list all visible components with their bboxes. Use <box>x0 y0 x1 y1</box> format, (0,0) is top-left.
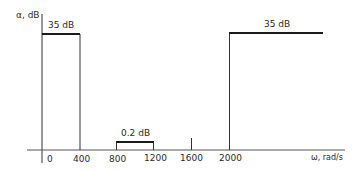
tick-label-800: 800 <box>109 155 126 164</box>
tick-label-0: 0 <box>47 155 53 164</box>
tick-label-400: 400 <box>73 155 90 164</box>
tick-label-1600: 1600 <box>180 154 203 163</box>
stopband-high-label: 35 dB <box>264 20 290 29</box>
tick-label-2000: 2000 <box>219 154 242 163</box>
stopband-low-label: 35 dB <box>48 21 74 30</box>
passband-label: 0.2 dB <box>121 129 150 138</box>
tick-label-1200: 1200 <box>144 154 167 163</box>
y-axis-label: α, dB <box>16 11 40 20</box>
x-axis-label: ω, rad/s <box>311 154 343 162</box>
